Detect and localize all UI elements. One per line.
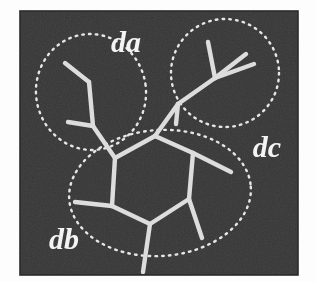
molecular-annotation-figure: da db dc bbox=[0, 0, 316, 282]
figure-container: da db dc bbox=[0, 0, 316, 282]
panel-grain-overlay-top bbox=[20, 11, 298, 275]
